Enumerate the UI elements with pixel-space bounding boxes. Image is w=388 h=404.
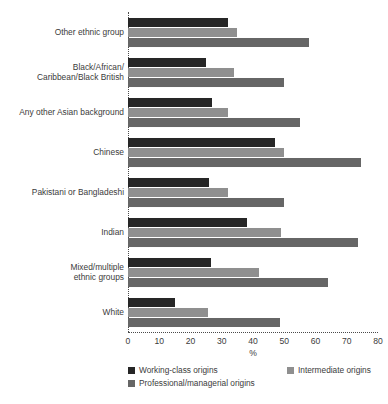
legend-swatch-icon <box>287 367 294 374</box>
bar-group <box>128 178 378 207</box>
chart-legend: Working-class originsIntermediate origin… <box>0 366 388 400</box>
bar <box>128 148 284 157</box>
y-axis-label: Any other Asian background <box>4 107 128 118</box>
y-axis-label: Black/African/Caribbean/Black British <box>4 62 128 83</box>
x-axis-tick-label: 0 <box>126 336 131 346</box>
x-axis-tick-label: 20 <box>186 336 196 346</box>
bar <box>128 158 361 167</box>
x-axis-tick-label: 60 <box>311 336 321 346</box>
y-axis-label: White <box>4 307 128 318</box>
bar <box>128 188 228 197</box>
bar <box>128 238 358 247</box>
legend-swatch-icon <box>128 380 135 387</box>
y-axis-label: Pakistani or Bangladeshi <box>4 187 128 198</box>
bar <box>128 68 234 77</box>
bar <box>128 58 206 67</box>
legend-item: Professional/managerial origins <box>128 379 255 388</box>
legend-label: Intermediate origins <box>298 366 371 375</box>
bar <box>128 18 228 27</box>
x-axis-title: % <box>128 348 378 358</box>
x-axis-tick-label: 70 <box>342 336 352 346</box>
bar <box>128 318 280 327</box>
bar <box>128 138 275 147</box>
bar-group <box>128 18 378 47</box>
y-axis-label: Mixed/multipleethnic groups <box>4 262 128 283</box>
legend-swatch-icon <box>128 367 135 374</box>
bar <box>128 198 284 207</box>
bar <box>128 298 175 307</box>
bar <box>128 268 259 277</box>
bar <box>128 218 247 227</box>
y-axis-labels: Other ethnic groupBlack/African/Caribbea… <box>0 12 128 332</box>
legend-item: Intermediate origins <box>287 366 371 375</box>
x-axis-tick-label: 10 <box>154 336 164 346</box>
plot-area <box>128 12 378 332</box>
y-axis-label: Other ethnic group <box>4 27 128 38</box>
x-axis-tick-label: 50 <box>279 336 289 346</box>
x-axis-tick-label: 80 <box>373 336 383 346</box>
bar-group <box>128 58 378 87</box>
bar <box>128 258 211 267</box>
y-axis-label: Indian <box>4 227 128 238</box>
bar-group <box>128 98 378 127</box>
bar <box>128 78 284 87</box>
bar-group <box>128 258 378 287</box>
bar-group <box>128 138 378 167</box>
bar <box>128 308 208 317</box>
bar-group <box>128 298 378 327</box>
bar <box>128 118 300 127</box>
legend-label: Professional/managerial origins <box>139 379 255 388</box>
bar <box>128 28 237 37</box>
bar <box>128 228 281 237</box>
y-axis-label: Chinese <box>4 147 128 158</box>
x-axis-tick-label: 30 <box>217 336 227 346</box>
bar <box>128 108 228 117</box>
x-axis-line <box>128 332 378 334</box>
bar <box>128 38 309 47</box>
bar-group <box>128 218 378 247</box>
bar-chart: Other ethnic groupBlack/African/Caribbea… <box>0 0 388 404</box>
bar <box>128 98 212 107</box>
legend-label: Working-class origins <box>139 366 218 375</box>
bar <box>128 278 328 287</box>
bar <box>128 178 209 187</box>
legend-item: Working-class origins <box>128 366 218 375</box>
x-axis-tick-label: 40 <box>248 336 258 346</box>
